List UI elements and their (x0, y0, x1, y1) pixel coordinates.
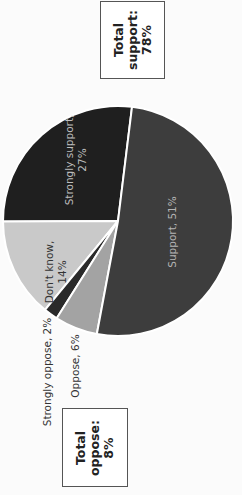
slice-label-support: Support, 51% (166, 196, 178, 268)
svg-text:Strongly support,: Strongly support, (63, 115, 75, 206)
svg-text:Strongly oppose, 2%: Strongly oppose, 2% (41, 318, 53, 427)
svg-text:Oppose, 6%: Oppose, 6% (69, 334, 81, 397)
svg-text:Support, 51%: Support, 51% (166, 196, 178, 268)
svg-text:Don't know,: Don't know, (43, 241, 55, 304)
total-support-text: Total support: 78% (112, 10, 154, 70)
svg-text:27%: 27% (76, 148, 88, 171)
chart-canvas: Strongly support,27%Don't know,14%Strong… (0, 0, 242, 495)
total-oppose-box: Total oppose: 8% (62, 408, 128, 487)
slice-label-oppose: Oppose, 6% (69, 334, 81, 397)
total-oppose-text: Total oppose: 8% (74, 420, 116, 476)
svg-text:14%: 14% (56, 260, 68, 283)
total-support-box: Total support: 78% (100, 1, 165, 79)
slice-label-strongly-oppose: Strongly oppose, 2% (41, 318, 53, 427)
